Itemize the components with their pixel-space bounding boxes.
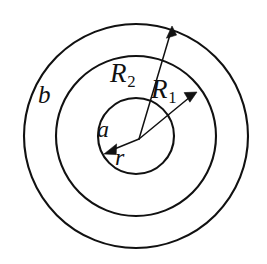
label-r: r <box>115 145 124 169</box>
label-R1: R1 <box>151 76 176 103</box>
label-R1-subscript: 1 <box>168 88 176 107</box>
label-b: b <box>38 82 51 107</box>
figure-canvas <box>0 0 267 264</box>
label-R2-letter: R <box>110 58 127 88</box>
label-R2-subscript: 2 <box>127 72 135 91</box>
label-a: a <box>97 117 109 141</box>
concentric-circles-figure: b R2 R1 a r <box>0 0 267 264</box>
inner-circle <box>98 98 174 174</box>
outer-circle <box>24 24 248 248</box>
label-R1-letter: R <box>151 74 168 104</box>
label-R2: R2 <box>110 60 135 87</box>
middle-circle <box>56 56 216 216</box>
